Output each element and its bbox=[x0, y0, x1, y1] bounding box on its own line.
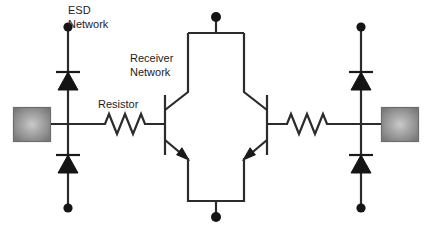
esd-network-right bbox=[349, 22, 373, 212]
diode-top-right-triangle bbox=[351, 72, 371, 90]
circuit-diagram-canvas: ESD Network Receiver Network Resistor bbox=[0, 0, 430, 234]
pad-left bbox=[13, 107, 51, 142]
center-rails bbox=[188, 12, 244, 222]
pad-left-group bbox=[13, 107, 100, 142]
label-resistor: Resistor bbox=[98, 98, 139, 110]
resistor-left-group bbox=[100, 114, 165, 134]
terminal-bottom-center-node bbox=[211, 212, 221, 222]
label-esd-network-line2: Network bbox=[68, 18, 109, 30]
resistor-right-zigzag bbox=[267, 114, 332, 134]
circuit-schematic-svg: ESD Network Receiver Network Resistor bbox=[0, 0, 430, 234]
terminal-top-right-node bbox=[356, 22, 365, 31]
label-receiver-network-line2: Network bbox=[130, 66, 171, 78]
esd-network-left bbox=[56, 22, 80, 212]
terminal-bottom-left-node bbox=[63, 203, 72, 212]
transistor-left-emitter-to-bottom-rail bbox=[188, 158, 216, 201]
label-esd-network-line1: ESD bbox=[68, 4, 91, 16]
terminal-top-center-node bbox=[211, 12, 221, 22]
terminal-bottom-right-node bbox=[356, 203, 365, 212]
label-receiver-network-line1: Receiver bbox=[130, 52, 174, 64]
pad-right-group bbox=[381, 107, 419, 142]
diode-bottom-left-triangle bbox=[58, 155, 78, 173]
diagram-labels: ESD Network Receiver Network Resistor bbox=[68, 4, 174, 110]
resistor-left-zigzag bbox=[100, 114, 165, 134]
transistor-right-collector-lead bbox=[244, 33, 267, 110]
resistor-right-group bbox=[267, 114, 381, 134]
pad-right bbox=[381, 107, 419, 142]
transistor-right bbox=[216, 33, 267, 201]
diode-top-left-triangle bbox=[58, 72, 78, 90]
diode-bottom-right-triangle bbox=[351, 155, 371, 173]
transistor-right-emitter-to-bottom-rail bbox=[216, 158, 244, 201]
